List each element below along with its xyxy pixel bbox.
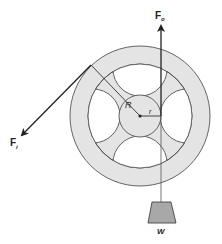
center-point	[138, 114, 141, 117]
input-force-label: Fi	[10, 137, 18, 150]
weight-block	[148, 202, 176, 223]
wheel-and-axle-diagram: Fo Fi R r W	[0, 0, 222, 244]
weight-label: W	[157, 227, 166, 236]
big-radius-label: R	[125, 100, 132, 110]
output-force-label: Fo	[155, 10, 165, 22]
